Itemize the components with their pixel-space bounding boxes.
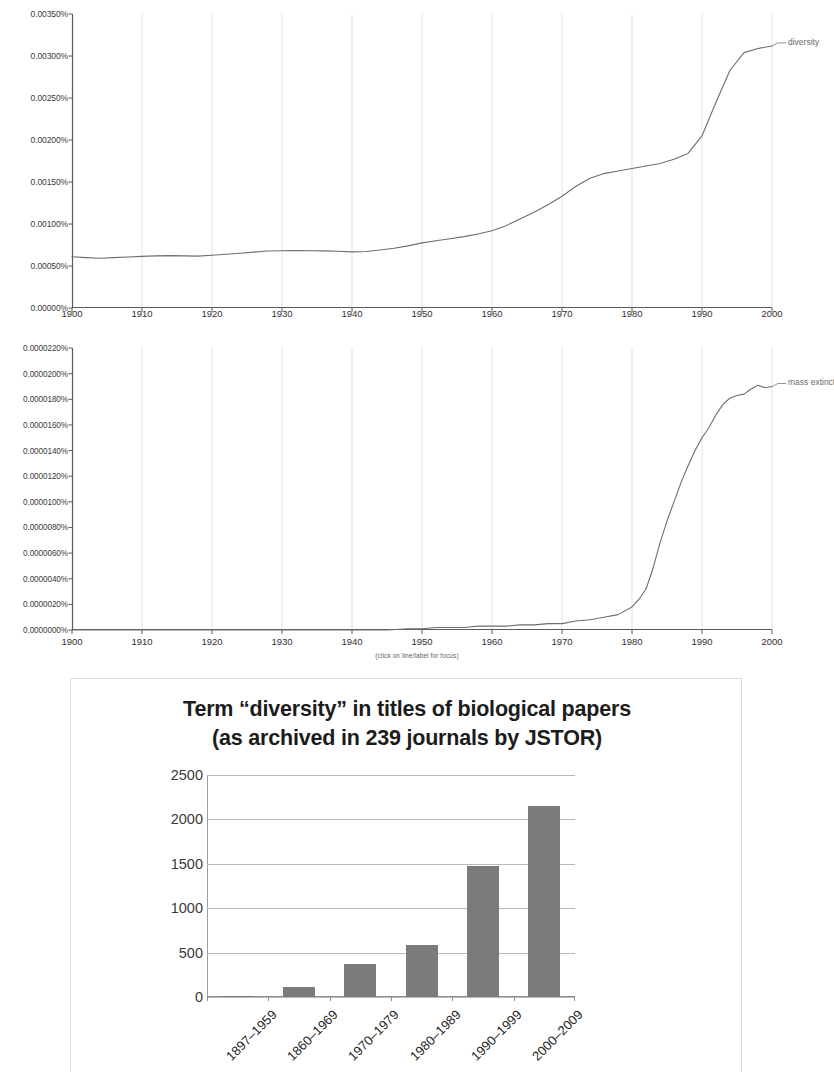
y-tick-label: 0.0000060%: [23, 549, 68, 558]
bar-x-tick: [207, 997, 208, 1001]
bar-category-label: 1990–1999: [468, 1007, 525, 1064]
x-tick-label: 1910: [131, 636, 152, 647]
y-tick-label: 0.00350%: [31, 9, 68, 19]
x-tick-label: 1940: [341, 636, 362, 647]
ngram1-series-label[interactable]: diversity: [788, 37, 819, 47]
bar-category-label: 1980–1989: [407, 1007, 464, 1064]
ngram2-axes: [69, 348, 773, 634]
x-tick-label: 1980: [621, 308, 642, 319]
bar-chart-plot-area[interactable]: [207, 775, 575, 997]
y-tick-label: 0.00100%: [31, 219, 68, 229]
x-tick-label: 2000: [761, 636, 782, 647]
x-tick-label: 1960: [481, 636, 502, 647]
x-tick-label: 1960: [481, 308, 502, 319]
bar-chart-title-line2: (as archived in 239 journals by JSTOR): [95, 724, 719, 753]
x-tick-label: 1950: [411, 308, 432, 319]
y-tick-label: 0.00050%: [31, 261, 68, 271]
bar-y-tick-label: 2000: [171, 811, 203, 827]
x-tick-label: 1920: [201, 636, 222, 647]
bar-category-label: 1897–1959: [223, 1007, 280, 1064]
y-tick-label: 0.0000160%: [23, 420, 68, 429]
bar-x-tick: [452, 997, 453, 1001]
bar-category-label: 1860–1969: [284, 1007, 341, 1064]
x-tick-label: 1940: [341, 308, 362, 319]
y-tick-label: 0.00150%: [31, 177, 68, 187]
bar-chart-title-line1: Term “diversity” in titles of biological…: [95, 695, 719, 724]
bar-x-tick: [330, 997, 331, 1001]
x-tick-label: 1970: [551, 636, 572, 647]
bar-chart-gridline: [207, 908, 575, 909]
bar-x-tick: [268, 997, 269, 1001]
bar-chart-gridline: [207, 864, 575, 865]
bar-chart-title: Term “diversity” in titles of biological…: [95, 695, 719, 753]
x-tick-label: 1950: [411, 636, 432, 647]
x-tick-label: 1900: [61, 308, 82, 319]
bar-chart-y-axis-labels: 05001000150020002500: [119, 775, 203, 997]
x-tick-label: 1970: [551, 308, 572, 319]
ngram2-gridlines: [142, 348, 772, 630]
y-tick-label: 0.0000140%: [23, 446, 68, 455]
x-tick-label: 1990: [691, 636, 712, 647]
bar-category-label: 1970–1979: [345, 1007, 402, 1064]
ngram1-axes: [69, 14, 773, 312]
bar-chart-card: Term “diversity” in titles of biological…: [70, 678, 742, 1072]
bar-y-tick-label: 1000: [171, 900, 203, 916]
bar-chart-gridline: [207, 775, 575, 776]
y-tick-label: 0.0000080%: [23, 523, 68, 532]
bar-x-tick: [391, 997, 392, 1001]
y-tick-label: 0.00250%: [31, 93, 68, 103]
ngram2-x-axis-labels: 1900191019201930194019501960197019801990…: [0, 636, 834, 652]
bar-category-label: 2000–2009: [529, 1007, 586, 1064]
bar-x-tick: [574, 997, 575, 1001]
y-tick-label: 0.0000040%: [23, 574, 68, 583]
bar[interactable]: [222, 996, 254, 997]
ngram2-label-leader: [772, 384, 786, 387]
ngram1-gridlines: [142, 14, 772, 308]
ngram1-y-axis-labels: 0.00350%0.00300%0.00250%0.00200%0.00150%…: [0, 6, 72, 308]
bar[interactable]: [528, 806, 560, 997]
ngram2-series-label[interactable]: mass extinction: [788, 377, 834, 387]
y-tick-label: 0.00300%: [31, 51, 68, 61]
bar-y-tick-label: 1500: [171, 856, 203, 872]
ngram2-svg: [72, 348, 772, 630]
x-tick-label: 1910: [131, 308, 152, 319]
ngram1-x-axis-labels: 1900191019201930194019501960197019801990…: [0, 308, 834, 324]
x-tick-label: 1920: [201, 308, 222, 319]
bar-x-tick: [514, 997, 515, 1001]
bar-chart-gridline: [207, 819, 575, 820]
ngram2-plot-area[interactable]: [72, 348, 772, 630]
bar[interactable]: [467, 866, 499, 997]
y-tick-label: 0.0000100%: [23, 497, 68, 506]
ngram1-svg: [72, 14, 772, 308]
y-tick-label: 0.0000180%: [23, 395, 68, 404]
x-tick-label: 1930: [271, 636, 292, 647]
ngram2-y-axis-labels: 0.0000220%0.0000200%0.0000180%0.0000160%…: [0, 340, 72, 630]
screenshot-root: 0.00350%0.00300%0.00250%0.00200%0.00150%…: [0, 0, 834, 1072]
y-tick-label: 0.0000200%: [23, 369, 68, 378]
x-tick-label: 2000: [761, 308, 782, 319]
x-tick-label: 1930: [271, 308, 292, 319]
ngram-chart-diversity[interactable]: 0.00350%0.00300%0.00250%0.00200%0.00150%…: [0, 6, 834, 324]
clipped-header-text: [556, 0, 676, 5]
focus-hint-text: (click on line/label for focus): [0, 652, 834, 659]
bar[interactable]: [283, 987, 315, 997]
x-tick-label: 1980: [621, 636, 642, 647]
bar-chart-gridline: [207, 953, 575, 954]
bar-y-tick-label: 0: [195, 989, 203, 1005]
ngram1-plot-area[interactable]: [72, 14, 772, 308]
bar[interactable]: [344, 964, 376, 997]
ngram-chart-mass-extinction[interactable]: 0.0000220%0.0000200%0.0000180%0.0000160%…: [0, 340, 834, 652]
y-tick-label: 0.00200%: [31, 135, 68, 145]
bar-y-tick-label: 2500: [171, 767, 203, 783]
y-tick-label: 0.0000220%: [23, 344, 68, 353]
bar-y-tick-label: 500: [179, 945, 203, 961]
x-tick-label: 1990: [691, 308, 712, 319]
x-tick-label: 1900: [61, 636, 82, 647]
y-tick-label: 0.0000120%: [23, 472, 68, 481]
bar[interactable]: [406, 945, 438, 997]
y-tick-label: 0.0000000%: [23, 626, 68, 635]
ngram1-label-leader: [772, 43, 786, 46]
y-tick-label: 0.0000020%: [23, 600, 68, 609]
bar-chart-y-axis-line: [207, 775, 208, 997]
